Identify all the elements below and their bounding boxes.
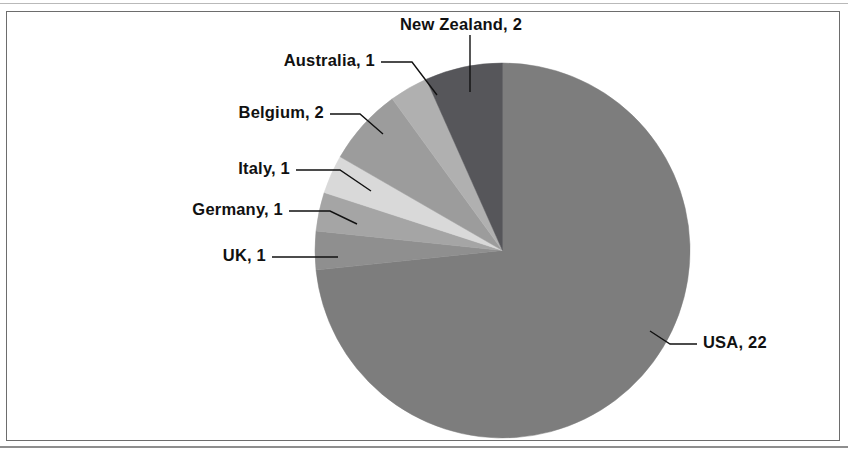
pie-label-uk: UK, 1 [10,247,266,264]
pie-label-germany: Germany, 1 [10,201,283,218]
pie-label-belgium: Belgium, 2 [50,104,324,121]
pie-label-new-zealand: New Zealand, 2 [400,16,522,33]
pie-label-australia: Australia, 1 [95,52,375,69]
pie-label-italy: Italy, 1 [20,160,290,177]
pie-slices-group [315,63,690,438]
figure-root: New Zealand, 2 Australia, 1 Belgium, 2 I… [0,0,848,449]
pie-label-usa: USA, 22 [703,334,767,351]
